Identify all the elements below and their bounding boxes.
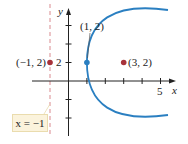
directrix-point-dot — [47, 60, 53, 66]
focus-label: (3, 2) — [128, 56, 152, 69]
x-axis-arrow-icon — [169, 79, 176, 84]
directrix-label-leader — [44, 104, 50, 114]
vertex-label: (1, 2) — [80, 20, 104, 33]
vertex-point-dot — [84, 60, 90, 66]
y-tick-label-2: 2 — [56, 56, 62, 68]
directrix-point-label: (−1, 2) — [16, 56, 46, 69]
y-axis-label: y — [57, 5, 63, 17]
y-axis-arrow-icon — [66, 8, 71, 15]
x-axis-label: x — [171, 84, 177, 96]
focus-point-dot — [121, 60, 127, 66]
directrix-label: x = −1 — [16, 117, 45, 129]
directrix-label-box: x = −1 — [12, 114, 48, 132]
x-tick-label-5: 5 — [157, 85, 163, 97]
